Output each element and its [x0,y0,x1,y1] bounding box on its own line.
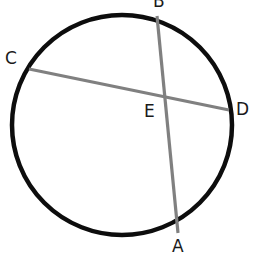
chord-cd-line [29,69,229,110]
vertex-label-d: D [236,101,249,118]
vertex-label-a: A [172,238,184,255]
vertex-label-b: B [153,0,165,10]
chord-ab-line [157,16,178,233]
geometry-canvas [0,0,256,262]
geometry-figure: B C D A E [0,0,256,262]
vertex-label-c: C [5,50,17,67]
circle-outline [12,15,232,235]
intersection-label-e: E [144,103,155,120]
